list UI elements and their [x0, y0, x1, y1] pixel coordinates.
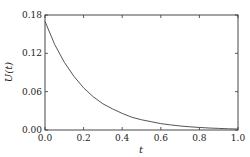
data-line: [45, 21, 238, 129]
x-tick-label: 0.8: [192, 133, 207, 143]
line-chart: 0.00.20.40.60.81.0 0.000.060.120.18 t U(…: [0, 0, 250, 157]
x-tick-label: 0.6: [154, 133, 169, 143]
plot-area: [45, 15, 238, 130]
x-axis-ticks: 0.00.20.40.60.81.0: [38, 15, 246, 143]
x-tick-label: 0.4: [115, 133, 130, 143]
y-axis-label: U(t): [3, 62, 14, 82]
x-tick-label: 0.2: [76, 133, 90, 143]
y-tick-label: 0.12: [22, 48, 42, 58]
x-tick-label: 1.0: [231, 133, 246, 143]
y-tick-label: 0.00: [22, 125, 42, 135]
y-tick-label: 0.18: [22, 10, 42, 20]
x-axis-label: t: [139, 144, 144, 155]
y-tick-label: 0.06: [22, 87, 42, 97]
